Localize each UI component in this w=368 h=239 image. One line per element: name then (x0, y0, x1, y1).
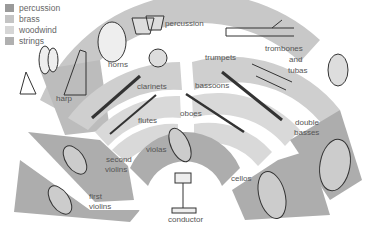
label-double-basses-2: basses (294, 128, 319, 137)
label-second-violins-1: second (106, 155, 132, 164)
legend-item-brass: brass (5, 13, 60, 24)
label-cellos: cellos (231, 174, 251, 183)
orchestra-seating-diagram: percussion brass woodwind strings percus… (0, 0, 368, 239)
legend-item-strings: strings (5, 35, 60, 46)
podium-icon (175, 173, 191, 183)
bass-drum-icon (98, 22, 126, 62)
label-harp: harp (56, 94, 72, 103)
label-oboes: oboes (180, 109, 202, 118)
legend-item-woodwind: woodwind (5, 24, 60, 35)
swatch-strings (5, 37, 14, 45)
legend: percussion brass woodwind strings (5, 2, 60, 46)
label-flutes: flutes (138, 116, 157, 125)
swatch-percussion (5, 4, 14, 12)
triangle-icon (20, 72, 36, 94)
label-double-basses-1: double (295, 118, 319, 127)
horn-icon (149, 49, 167, 67)
label-horns: horns (108, 60, 128, 69)
label-first-violins-2: violins (89, 202, 111, 211)
timpani-icon (132, 16, 164, 34)
label-bassoons: bassoons (195, 81, 229, 90)
legend-item-percussion: percussion (5, 2, 60, 13)
label-trumpets: trumpets (205, 53, 236, 62)
legend-label: percussion (19, 3, 60, 13)
label-conductor: conductor (168, 215, 203, 224)
label-trombones: trombones (265, 44, 303, 53)
label-clarinets: clarinets (137, 82, 167, 91)
tuba-icon (328, 54, 348, 86)
legend-label: brass (19, 14, 40, 24)
label-tubas: tubas (288, 66, 308, 75)
swatch-brass (5, 15, 14, 23)
legend-label: woodwind (19, 25, 57, 35)
label-trombones-and: and (289, 55, 302, 64)
label-violas: violas (146, 145, 166, 154)
label-second-violins-2: violins (105, 165, 127, 174)
legend-label: strings (19, 36, 44, 46)
label-percussion: percussion (165, 19, 204, 28)
swatch-woodwind (5, 26, 14, 34)
label-first-violins-1: first (89, 192, 102, 201)
